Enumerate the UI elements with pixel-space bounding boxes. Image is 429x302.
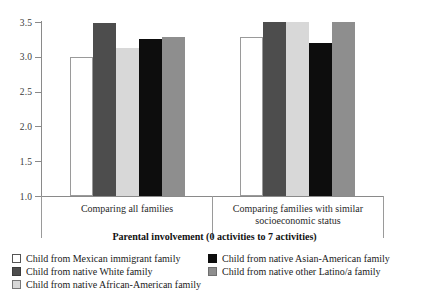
y-tick-1.5: 1.5 xyxy=(35,161,41,162)
legend-item: Child from native African-American famil… xyxy=(12,278,208,291)
bar xyxy=(263,22,286,196)
y-tick-label: 2.5 xyxy=(20,87,32,97)
legend-item: Child from native Asian-American family xyxy=(208,252,422,265)
y-tick-mark xyxy=(35,92,41,93)
y-tick-label: 1.0 xyxy=(20,192,32,202)
chart-legend: Child from Mexican immigrant familyChild… xyxy=(12,252,422,291)
bar xyxy=(162,37,185,196)
y-tick-mark xyxy=(35,57,41,58)
legend-swatch-icon xyxy=(208,254,217,263)
y-tick-3.0: 3.0 xyxy=(35,57,41,58)
legend-label: Child from native African-American famil… xyxy=(26,279,201,290)
legend-label: Child from native Asian-American family xyxy=(222,253,390,264)
bar xyxy=(70,57,93,196)
group-label-all-families: Comparing all families xyxy=(42,203,212,215)
legend-item: Child from native other Latino/a family xyxy=(208,265,422,278)
bar xyxy=(286,22,309,196)
plot-area xyxy=(42,22,383,196)
y-tick-mark xyxy=(35,161,41,162)
legend-item: Child from Mexican immigrant family xyxy=(12,252,208,265)
legend-item: Child from native White family xyxy=(12,265,208,278)
y-tick-3.5: 3.5 xyxy=(35,22,41,23)
legend-column-right: Child from native Asian-American familyC… xyxy=(208,252,422,291)
y-tick-label: 1.5 xyxy=(20,157,32,167)
y-tick-label: 3.5 xyxy=(20,18,32,28)
y-tick-2.5: 2.5 xyxy=(35,92,41,93)
y-tick-mark xyxy=(35,22,41,23)
bar xyxy=(139,39,162,196)
bar xyxy=(332,22,355,196)
legend-swatch-icon xyxy=(208,267,217,276)
y-tick-mark xyxy=(35,126,41,127)
bar-chart-figure: 1.01.52.02.53.03.5 Comparing all familie… xyxy=(0,0,429,302)
legend-swatch-icon xyxy=(12,254,21,263)
bar xyxy=(309,43,332,196)
group-label-similar-ses: Comparing families with similar socioeco… xyxy=(213,203,383,227)
legend-swatch-icon xyxy=(12,267,21,276)
legend-label: Child from Mexican immigrant family xyxy=(26,253,180,264)
y-tick-label: 3.0 xyxy=(20,52,32,62)
bar xyxy=(116,48,139,196)
legend-swatch-icon xyxy=(12,280,21,289)
y-tick-label: 2.0 xyxy=(20,122,32,132)
x-axis-title: Parental involvement (0 activities to 7 … xyxy=(0,231,429,242)
bar xyxy=(240,37,263,196)
y-tick-2.0: 2.0 xyxy=(35,126,41,127)
legend-label: Child from native White family xyxy=(26,266,152,277)
legend-label: Child from native other Latino/a family xyxy=(222,266,381,277)
legend-column-left: Child from Mexican immigrant familyChild… xyxy=(12,252,208,291)
bar xyxy=(93,23,116,196)
